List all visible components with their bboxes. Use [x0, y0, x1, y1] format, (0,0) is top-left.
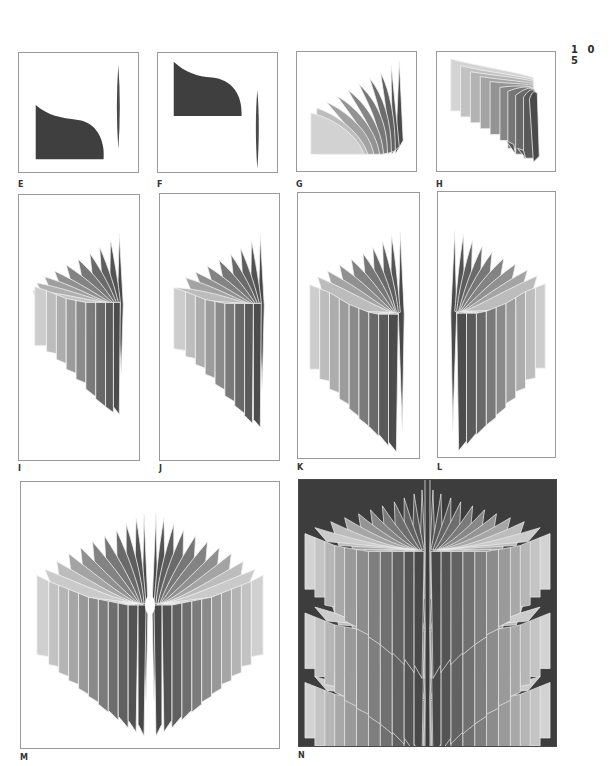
- figure-e-graphic: [19, 53, 138, 172]
- figure-label-i: I: [18, 464, 21, 473]
- figure-k-graphic: [298, 193, 419, 458]
- figure-e: [18, 52, 139, 173]
- figure-l-graphic: [438, 192, 555, 457]
- figure-m: [20, 481, 280, 749]
- figure-label-g: G: [296, 180, 303, 189]
- figure-label-n: N: [298, 751, 305, 760]
- figure-label-m: M: [20, 753, 28, 762]
- figure-label-e: E: [18, 180, 23, 189]
- figure-label-f: F: [157, 180, 162, 189]
- figure-f-graphic: [158, 53, 277, 172]
- figure-i-graphic: [19, 195, 139, 460]
- figure-m-graphic: [21, 482, 279, 748]
- figure-j: [159, 193, 280, 461]
- figure-j-graphic: [160, 194, 279, 460]
- figure-f: [157, 52, 278, 173]
- figure-h: [436, 51, 556, 172]
- figure-h-graphic: [437, 52, 555, 171]
- figure-g-graphic: [297, 52, 416, 171]
- figure-n: [298, 479, 557, 747]
- figure-k: [297, 192, 420, 459]
- figure-label-k: K: [297, 463, 303, 472]
- page-number: 1 0 5: [571, 44, 609, 66]
- figure-i: [18, 194, 140, 461]
- figure-label-j: J: [159, 464, 162, 473]
- figure-g: [296, 51, 417, 172]
- figure-label-l: L: [437, 463, 442, 472]
- figure-label-h: H: [436, 180, 443, 189]
- figure-l: [437, 191, 556, 458]
- figure-n-graphic: [299, 480, 556, 746]
